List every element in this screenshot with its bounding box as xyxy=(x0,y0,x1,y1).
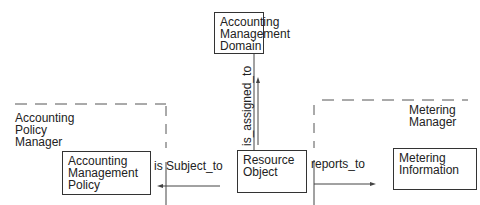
node-label: Resource Object xyxy=(243,153,294,179)
node-accounting-management-domain: Accounting Management Domain xyxy=(214,12,264,54)
group-label-accounting-policy-manager: Accounting Policy Manager xyxy=(15,112,74,148)
edge-label-reports-to: reports_to xyxy=(311,158,365,170)
group-label-metering-manager: Metering Manager xyxy=(409,104,456,128)
edge-label-subject-to: is Subject_to xyxy=(154,160,223,172)
edge-label-is-assigned-to: is_assigned_to xyxy=(240,66,254,146)
node-accounting-management-policy: Accounting Management Policy xyxy=(62,151,151,195)
node-label: Accounting Management Policy xyxy=(68,154,138,192)
node-metering-information: Metering Information xyxy=(393,148,477,190)
node-label: Metering Information xyxy=(399,151,459,177)
node-resource-object: Resource Object xyxy=(237,150,307,193)
